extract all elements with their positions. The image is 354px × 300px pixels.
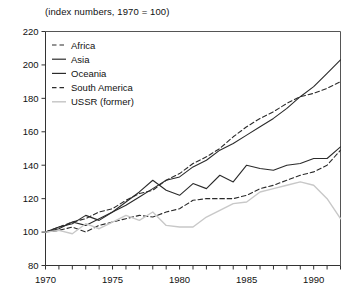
y-tick-label: 200 bbox=[23, 59, 39, 70]
series-line-oceania bbox=[46, 147, 341, 232]
series-line-ussr-former bbox=[46, 182, 341, 234]
x-tick-label: 1980 bbox=[169, 274, 190, 285]
legend-label-oceania: Oceania bbox=[71, 68, 107, 79]
legend-label-asia: Asia bbox=[71, 54, 90, 65]
y-tick-label: 120 bbox=[23, 193, 39, 204]
y-tick-label: 160 bbox=[23, 126, 39, 137]
y-tick-label: 180 bbox=[23, 93, 39, 104]
x-tick-label: 1985 bbox=[236, 274, 257, 285]
x-tick-label: 1990 bbox=[303, 274, 324, 285]
series-line-africa bbox=[46, 150, 341, 232]
legend-label-south-america: South America bbox=[71, 82, 133, 93]
chart-figure: (index numbers, 1970 = 100) 220200180160… bbox=[0, 0, 354, 300]
y-tick-label: 140 bbox=[23, 160, 39, 171]
legend-label-ussr-former: USSR (former) bbox=[71, 96, 134, 107]
y-tick-label: 80 bbox=[28, 260, 39, 271]
x-tick-label: 1970 bbox=[35, 274, 56, 285]
chart-canvas: 2202001801601401201008019701975198019851… bbox=[0, 0, 354, 300]
legend-label-africa: Africa bbox=[71, 40, 96, 51]
y-tick-label: 220 bbox=[23, 26, 39, 37]
x-tick-label: 1975 bbox=[102, 274, 123, 285]
y-tick-label: 100 bbox=[23, 226, 39, 237]
